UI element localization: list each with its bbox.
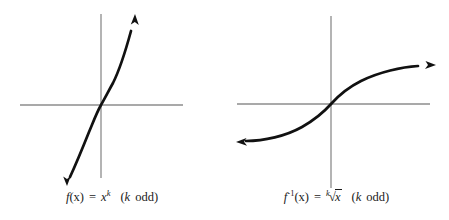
caption-equals: =	[89, 190, 96, 204]
caption-inverse-argument: (x)	[294, 190, 309, 204]
caption-inverse-condition-text: odd	[366, 190, 385, 204]
figure-odd-power-function: f(x)=xk(kodd)	[0, 0, 224, 220]
caption-inverse-equals: =	[314, 190, 321, 204]
radical-expression: k√x	[326, 189, 341, 205]
caption-condition-text: odd	[135, 190, 154, 204]
arrowhead-curve-right	[425, 61, 436, 69]
caption-condition-close: )	[154, 190, 158, 204]
caption-odd-power-function: f(x)=xk(kodd)	[0, 190, 224, 205]
caption-argument: (x)	[69, 190, 84, 204]
plot-odd-root-function	[224, 0, 449, 190]
caption-inverse-condition-close: )	[385, 190, 389, 204]
caption-odd-root-function: f-1(x)=k√x(kodd)	[224, 189, 449, 205]
caption-condition-variable: k	[125, 190, 131, 204]
caption-inverse-condition-variable: k	[356, 190, 362, 204]
figure-odd-root-function: f-1(x)=k√x(kodd)	[224, 0, 449, 220]
caption-exponent: k	[107, 188, 111, 198]
plot-odd-power-function	[0, 0, 224, 190]
radicand: x	[335, 189, 342, 204]
arrowhead-curve-lower-left	[63, 176, 71, 186]
arrowhead-curve-upper-right	[131, 14, 139, 25]
figure-page: f(x)=xk(kodd) f-1(x)=k√x(kodd)	[0, 0, 449, 220]
